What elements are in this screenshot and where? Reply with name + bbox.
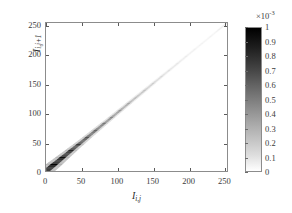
y-tick-label: 50 [16,138,41,148]
colorbar-tick-mark [245,114,248,115]
heatmap-diagonal-segment [46,167,55,168]
heatmap-diagonal-segment [59,157,66,158]
heatmap-diagonal-segment [46,168,54,169]
colorbar-tick-mark [245,85,248,86]
y-tick-mark [46,114,49,115]
x-tick-label: 150 [146,176,159,186]
x-tick-label: 250 [218,176,231,186]
colorbar-tick-label: 0.4 [265,109,276,119]
heatmap-diagonal-segment [67,151,74,152]
heatmap-diagonal-segment [68,150,75,151]
colorbar-exponent-power: -3 [269,9,274,16]
heatmap-diagonal-segment [51,163,59,164]
heatmap-diagonal-segment [53,161,61,162]
colorbar-tick-label: 0.8 [265,51,276,61]
heatmap-diagonal-segment [62,154,69,155]
y-tick-mark-right [224,55,227,56]
colorbar-tick-mark [245,158,248,159]
colorbar-tick-label: 0.2 [265,138,276,148]
colorbar-tick-mark [245,71,248,72]
heatmap-image [46,23,227,171]
y-tick-mark-right [224,144,227,145]
plot-area [45,22,228,172]
x-tick-mark [154,23,155,26]
y-tick-label: 100 [16,108,41,118]
heatmap-diagonal-segment [66,152,73,153]
heatmap-diagonal-segment [60,156,67,157]
heatmap-diagonal-segment [54,161,62,162]
colorbar-tick-label: 0.3 [265,124,276,134]
colorbar-tick-label: 0.9 [265,37,276,47]
y-tick-mark [46,55,49,56]
heatmap-diagonal-segment [50,164,58,165]
colorbar-tick-mark [245,129,248,130]
y-tick-mark [46,144,49,145]
x-tick-mark-top [46,168,47,171]
x-tick-mark [82,23,83,26]
heatmap-diagonal-segment [46,168,53,169]
colorbar-tick-mark [245,100,248,101]
x-tick-mark-top [190,168,191,171]
colorbar-exponent-label: ×10-3 [256,9,275,21]
colorbar-tick-mark [245,42,248,43]
heatmap-diagonal-segment [69,149,75,150]
y-tick-label: 0 [16,167,41,177]
x-tick-mark-top [154,168,155,171]
y-tick-mark-right [224,85,227,86]
heatmap-diagonal-segment [55,160,63,161]
x-tick-mark-top [118,168,119,171]
y-tick-mark-right [224,26,227,27]
heatmap-diagonal-segment [71,147,77,148]
x-tick-mark-top [225,168,226,171]
x-axis-label-subscript: i,j [135,195,141,203]
colorbar-tick-mark [245,27,248,28]
colorbar-tick-label: 1 [265,22,269,32]
y-tick-mark [46,26,49,27]
x-axis-label: Ii,j [45,190,228,203]
heatmap-diagonal-segment [48,166,57,167]
heatmap-diagonal-segment [64,153,71,154]
heatmap-diagonal-segment [49,165,57,166]
heatmap-diagonal-segment [52,162,60,163]
heatmap-diagonal-segment [72,147,78,148]
colorbar-tick-label: 0.1 [265,153,276,163]
y-tick-mark [46,85,49,86]
colorbar-tick-mark [245,172,248,173]
colorbar-tick-label: 0.5 [265,95,276,105]
heatmap-diagonal-segment [61,155,68,156]
x-tick-label: 50 [77,176,86,186]
heatmap-diagonal-segment [70,148,76,149]
colorbar-tick-label: 0.7 [265,66,276,76]
y-axis-label: Ii,j+1 [31,0,44,103]
colorbar-tick-label: 0.6 [265,80,276,90]
x-tick-mark [118,23,119,26]
heatmap-diagonal-segment [57,159,65,160]
heatmap-diagonal-segment [58,158,65,159]
heatmap-diagonal-segment [63,154,70,155]
y-axis-label-base: I [31,49,42,52]
x-tick-label: 0 [43,176,47,186]
colorbar-exponent-mantissa: ×10 [256,11,269,21]
colorbar-tick-mark [245,143,248,144]
figure-heatmap-joint-histogram: 050100150200250 050100150200250 Ii,j Ii,… [0,0,292,213]
y-axis-label-subscript: i,j+1 [35,35,43,49]
colorbar-tick-label: 0 [265,167,269,177]
y-tick-mark-right [224,114,227,115]
x-tick-mark-top [82,168,83,171]
x-tick-label: 200 [182,176,195,186]
x-tick-mark [190,23,191,26]
x-tick-label: 100 [110,176,123,186]
colorbar-tick-mark [245,56,248,57]
